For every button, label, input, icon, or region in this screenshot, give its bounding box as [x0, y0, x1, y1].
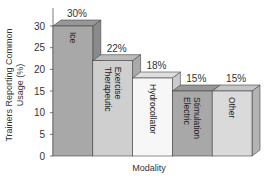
y-axis: 051015202530 [34, 8, 53, 162]
bar-chart: Trainers Reporting CommonUsage (%) 05101… [0, 0, 266, 178]
data-label: 30% [67, 8, 87, 19]
x-axis-label: Modality [132, 163, 166, 173]
data-label: 15% [226, 73, 246, 84]
data-label: 18% [146, 60, 166, 71]
category-label: Hydrocollator [148, 84, 158, 134]
bar-top-face [212, 85, 260, 91]
bar-side-face [252, 85, 260, 156]
category-label: Ice [68, 32, 78, 44]
bars: 30%Ice22%TherapeuticExercise18%Hydrocoll… [53, 8, 260, 156]
bar-top-face [53, 20, 101, 26]
y-tick-label: 0 [39, 151, 45, 162]
data-label: 22% [107, 43, 127, 54]
y-axis-label-line: Trainers Reporting Common [4, 28, 14, 141]
category-label: Other [227, 97, 237, 118]
chart-canvas: Trainers Reporting CommonUsage (%) 05101… [0, 0, 266, 178]
category-label: Exercise [113, 67, 123, 100]
category-label: Stimulation [192, 97, 202, 139]
y-axis-label: Trainers Reporting CommonUsage (%) [4, 28, 25, 141]
category-label: Therapeutic [103, 67, 113, 113]
bar-front-face [53, 26, 93, 156]
data-label: 15% [186, 73, 206, 84]
y-tick-label: 30 [34, 21, 46, 32]
y-tick-label: 5 [39, 129, 45, 140]
bar-other: 15%Other [212, 73, 260, 156]
bar-top-face [93, 55, 141, 61]
bar-top-face [133, 72, 181, 78]
category-label: Electric [182, 97, 192, 126]
y-tick-label: 10 [34, 107, 46, 118]
y-axis-label-line: Usage (%) [15, 64, 25, 107]
y-tick-label: 15 [34, 86, 46, 97]
y-tick-label: 25 [34, 42, 46, 53]
y-tick-label: 20 [34, 64, 46, 75]
